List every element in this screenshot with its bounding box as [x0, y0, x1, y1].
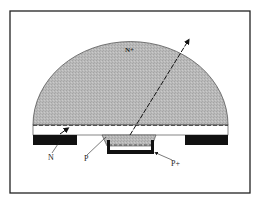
label-p: P — [84, 154, 88, 163]
right-metal-contact — [185, 135, 228, 145]
label-n: N — [48, 153, 54, 162]
p-region — [102, 135, 156, 146]
label-n-plus: N+ — [125, 46, 134, 54]
label-p-plus: P+ — [171, 159, 180, 168]
diagram-canvas: N+ N P P+ — [0, 0, 257, 201]
left-metal-contact — [33, 135, 77, 145]
cross-section-diagram — [0, 0, 257, 201]
